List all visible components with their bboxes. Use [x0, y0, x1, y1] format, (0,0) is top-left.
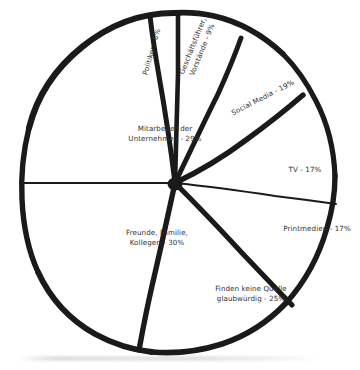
- slice-label-tv-line1: TV - 17%: [289, 165, 322, 174]
- pie-center-hub: [168, 178, 183, 191]
- slice-label-keine-quelle-line1: Finden keine Quelle: [215, 284, 287, 293]
- scan-artifact: [18, 356, 318, 361]
- slice-label-tv: TV - 17%: [275, 165, 335, 175]
- pie-chart-svg: [0, 0, 360, 370]
- slice-label-mitarbeiter: Mitarbeiter der Unternehmen - 29%: [110, 124, 220, 145]
- slice-label-printmedien: Printmedien - 17%: [272, 224, 360, 234]
- slice-label-freunde-familie-line1: Freunde, Familie,: [126, 228, 188, 237]
- slice-label-freunde-familie-line2: Kollegen - 30%: [102, 238, 212, 248]
- slice-label-mitarbeiter-line2: Unternehmen - 29%: [110, 134, 220, 144]
- slice-label-printmedien-line1: Printmedien - 17%: [283, 224, 350, 233]
- slice-label-mitarbeiter-line1: Mitarbeiter der: [138, 124, 193, 133]
- pie-chart: Politiker - 6% Geschäftsführer, Vorständ…: [0, 0, 360, 370]
- slice-label-freunde-familie: Freunde, Familie, Kollegen - 30%: [102, 228, 212, 249]
- slice-label-keine-quelle: Finden keine Quelle glaubwürdig - 25%: [196, 284, 306, 305]
- slice-label-keine-quelle-line2: glaubwürdig - 25%: [196, 294, 306, 304]
